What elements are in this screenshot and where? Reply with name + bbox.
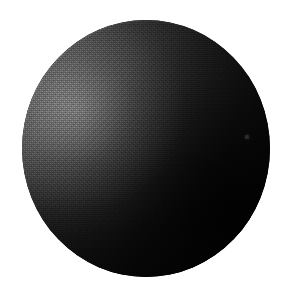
image-description: A single large dark gray-to-black sphere…: [0, 0, 1, 1]
sphere: [22, 20, 270, 277]
halftone-grain-fine: [22, 20, 270, 277]
image-canvas: A single large dark gray-to-black sphere…: [0, 0, 294, 300]
